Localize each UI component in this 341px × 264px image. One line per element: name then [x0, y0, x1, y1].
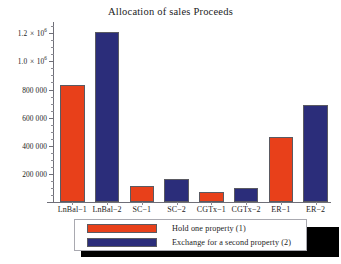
legend-item-series1: Hold one property (1) — [75, 221, 306, 236]
bar — [95, 32, 119, 202]
y-tick-minor — [51, 181, 54, 182]
y-tick-major — [49, 61, 54, 62]
y-tick-minor — [51, 97, 54, 98]
y-tick-minor — [51, 139, 54, 140]
y-tick-major — [49, 174, 54, 175]
y-tick-minor — [51, 195, 54, 196]
y-tick-minor — [51, 188, 54, 189]
y-tick-minor — [51, 26, 54, 27]
x-tick-label: ER−2 — [306, 205, 325, 214]
y-tick-minor — [51, 125, 54, 126]
plot-area: 200 000400 000600 000800 0001.0 × 1061.2… — [53, 22, 331, 202]
bar — [199, 192, 223, 202]
chart-legend: Hold one property (1) Exchange for a sec… — [74, 219, 307, 251]
x-tick-label: SC−2 — [167, 205, 186, 214]
y-tick-minor — [51, 160, 54, 161]
legend-swatch-series1 — [87, 224, 157, 233]
y-tick-minor — [51, 167, 54, 168]
y-tick-minor — [51, 82, 54, 83]
y-axis-line — [53, 22, 54, 202]
x-tick-label: CGTx−1 — [197, 205, 226, 214]
bar — [234, 188, 258, 202]
y-tick-minor — [51, 153, 54, 154]
y-tick-label: 400 000 — [22, 141, 47, 150]
x-tick-label: CGTx−2 — [232, 205, 261, 214]
y-tick-minor — [51, 54, 54, 55]
y-tick-label: 600 000 — [22, 113, 47, 122]
bar — [269, 137, 293, 202]
y-tick-label: 1.0 × 106 — [18, 57, 47, 66]
y-tick-minor — [51, 75, 54, 76]
bar — [164, 179, 188, 202]
y-tick-minor — [51, 104, 54, 105]
x-axis-line — [47, 202, 331, 203]
y-tick-major — [49, 90, 54, 91]
bar-chart: Allocation of sales Proceeds 200 000400 … — [0, 0, 341, 264]
legend-label-series1: Hold one property (1) — [172, 224, 246, 233]
legend-label-series2: Exchange for a second property (2) — [172, 238, 291, 247]
chart-title: Allocation of sales Proceeds — [0, 6, 341, 17]
y-tick-major — [49, 146, 54, 147]
y-tick-minor — [51, 47, 54, 48]
y-tick-major — [49, 118, 54, 119]
y-tick-label: 200 000 — [22, 169, 47, 178]
legend-item-series2: Exchange for a second property (2) — [75, 235, 306, 250]
y-tick-minor — [51, 132, 54, 133]
y-tick-minor — [51, 111, 54, 112]
y-tick-label: 1.2 × 106 — [18, 29, 47, 38]
bar — [303, 105, 327, 202]
x-tick-label: SC−1 — [133, 205, 152, 214]
legend-swatch-series2 — [87, 238, 157, 247]
x-tick-label: LnBal−2 — [93, 205, 122, 214]
bar — [130, 186, 154, 202]
y-tick-major — [49, 33, 54, 34]
x-tick-label: ER−1 — [271, 205, 290, 214]
x-tick-label: LnBal−1 — [58, 205, 87, 214]
y-tick-label: 800 000 — [22, 85, 47, 94]
bar — [60, 85, 84, 202]
y-tick-minor — [51, 40, 54, 41]
y-tick-minor — [51, 68, 54, 69]
